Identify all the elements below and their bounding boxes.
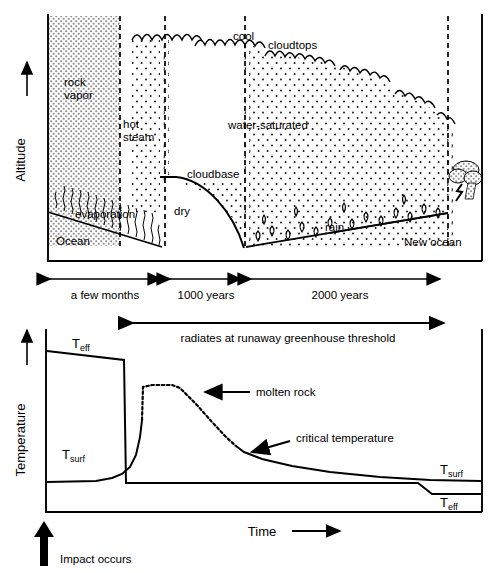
lightning-bolt-icon <box>456 184 462 201</box>
timeline: a few months 1000 years 2000 years <box>50 279 440 301</box>
critical-temperature-arrow <box>252 441 290 452</box>
label-ocean: Ocean <box>56 235 90 247</box>
label-hot-steam-line2: steam <box>123 131 154 143</box>
label-new-ocean: New ocean <box>404 236 462 248</box>
temperature-axis: Temperature <box>13 330 28 476</box>
time-axis-label: Time <box>248 524 276 539</box>
label-cloudtops: cloudtops <box>268 39 317 51</box>
thick-up-arrow-icon <box>34 521 54 566</box>
atmosphere-evolution-panel: Altitude <box>13 14 482 262</box>
label-tsurf-left: Tsurf <box>62 447 85 464</box>
label-evaporation: evaporation <box>75 208 135 220</box>
curve-tsurf-molten-dotted <box>142 385 236 446</box>
label-impact-occurs: Impact occurs <box>60 553 132 565</box>
label-hot-steam-line1: hot <box>123 118 140 130</box>
label-dry: dry <box>174 205 190 217</box>
label-rock-vapor-line1: rock <box>64 76 86 88</box>
label-teff-left: Teff <box>72 336 90 353</box>
label-rock-vapor-line2: vapor <box>64 89 93 101</box>
time-axis: Time <box>248 524 340 539</box>
timeline-label-1: 1000 years <box>178 289 235 301</box>
region-water-saturated-right <box>247 44 452 246</box>
label-cool: cool <box>233 30 254 42</box>
label-critical-temperature: critical temperature <box>296 432 394 444</box>
temperature-history-panel: radiates at runaway greenhouse threshold… <box>13 323 482 566</box>
impact-marker: Impact occurs <box>34 521 132 566</box>
label-tsurf-right: Tsurf <box>440 462 463 479</box>
label-teff-right: Teff <box>440 495 458 512</box>
storm-cloud-lightning-icon <box>449 161 482 201</box>
atmosphere-temperature-figure: Altitude <box>0 0 502 573</box>
label-cloudbase: cloudbase <box>187 168 239 180</box>
label-runaway-threshold: radiates at runaway greenhouse threshold <box>181 332 396 344</box>
timeline-label-0: a few months <box>71 289 140 301</box>
label-rain: rain <box>325 221 344 233</box>
curve-teff <box>47 351 481 494</box>
temperature-panel-frame <box>46 329 482 513</box>
altitude-axis: Altitude <box>13 62 28 182</box>
temperature-axis-label: Temperature <box>13 404 28 477</box>
label-water-saturated: water-saturated <box>227 119 308 131</box>
timeline-label-2: 2000 years <box>312 289 369 301</box>
label-molten-rock: molten rock <box>256 386 316 398</box>
altitude-axis-label: Altitude <box>13 138 28 181</box>
